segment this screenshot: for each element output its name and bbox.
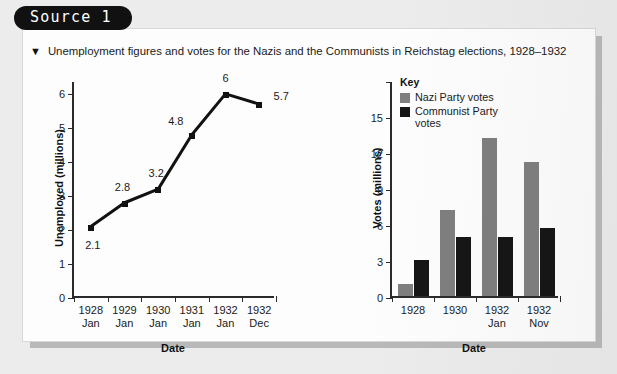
bar-chart-y-tick-label: 9 — [377, 184, 383, 196]
bar-chart-y-tick-label: 6 — [377, 220, 383, 232]
votes-bar-chart: Votes (millions) 03691215192819301932Jan… — [358, 74, 568, 314]
line-chart-point-label: 2.8 — [115, 181, 130, 193]
chart-legend-key: Key Nazi Party votes Communist Party vot… — [400, 76, 511, 131]
bar-communist-4 — [540, 228, 555, 296]
caption-text: Unemployment figures and votes for the N… — [48, 44, 567, 59]
line-chart-x-axis-title: Date — [72, 342, 274, 354]
line-chart-point-label: 3.2 — [149, 167, 164, 179]
bar-chart-x-axis-title: Date — [390, 342, 558, 354]
bar-chart-x-tick — [476, 296, 477, 302]
bar-chart-y-tick — [386, 118, 392, 119]
bar-chart-y-tick — [386, 190, 392, 191]
source-badge: Source 1 — [14, 6, 132, 30]
line-chart-data-point — [155, 187, 161, 193]
line-chart-y-tick-label: 1 — [59, 258, 65, 270]
line-chart-point-label: 4.8 — [168, 115, 183, 127]
bar-chart-x-tick — [434, 296, 435, 302]
line-chart-y-tick-label: 0 — [59, 292, 65, 304]
bar-chart-y-tick-label: 3 — [377, 256, 383, 268]
line-chart-y-tick-label: 2 — [59, 224, 65, 236]
line-chart-point-label: 6 — [222, 72, 228, 84]
bar-chart-y-tick — [386, 154, 392, 155]
legend-title: Key — [400, 76, 511, 88]
line-chart-data-point — [223, 92, 229, 98]
bar-chart-y-tick-label: 0 — [377, 292, 383, 304]
legend-item-nazi: Nazi Party votes — [400, 91, 511, 104]
line-chart-x-category-label: 1930Jan — [146, 304, 170, 330]
bar-chart-y-tick-label: 12 — [371, 148, 383, 160]
bar-chart-x-category-label: 1932Nov — [527, 304, 551, 330]
legend-label-communist: Communist Party votes — [415, 105, 511, 130]
bar-chart-x-tick — [518, 296, 519, 302]
bar-nazi-3 — [482, 138, 497, 296]
bar-chart-x-tick — [392, 296, 393, 302]
line-chart-y-tick-label: 6 — [59, 88, 65, 100]
line-chart-y-tick-label: 3 — [59, 190, 65, 202]
line-chart-data-point — [189, 133, 195, 139]
bar-chart-y-tick — [386, 226, 392, 227]
line-chart-data-point — [122, 201, 128, 207]
scanned-textbook-page: Source 1 ▼ Unemployment figures and vote… — [0, 0, 617, 374]
line-chart-y-axis-title: Unemployed (millions) — [53, 113, 65, 263]
figure-caption: ▼ Unemployment figures and votes for the… — [30, 44, 590, 59]
bar-nazi-4 — [524, 162, 539, 296]
legend-swatch-communist — [400, 107, 410, 117]
line-chart-x-category-label: 1931Jan — [180, 304, 204, 330]
line-chart-plot-area: 01234562.12.83.24.865.71928Jan1929Jan193… — [72, 82, 274, 298]
line-chart-x-tick — [276, 296, 277, 302]
line-chart-y-tick-label: 4 — [59, 156, 65, 168]
bar-communist-1 — [414, 260, 429, 296]
bar-communist-2 — [456, 237, 471, 296]
line-chart-x-category-label: 1928Jan — [79, 304, 103, 330]
bar-chart-y-tick — [386, 262, 392, 263]
line-chart-data-point — [256, 102, 262, 108]
bar-chart-x-category-label: 1932Jan — [485, 304, 509, 330]
bar-chart-x-tick — [560, 296, 561, 302]
bar-chart-y-tick — [386, 82, 392, 83]
line-chart-x-category-label: 1932Jan — [213, 304, 237, 330]
bar-chart-x-category-label: 1930 — [443, 304, 467, 317]
line-chart-y-tick-label: 5 — [59, 122, 65, 134]
bar-nazi-1 — [398, 284, 413, 296]
legend-item-communist: Communist Party votes — [400, 105, 511, 130]
line-chart-point-label: 2.1 — [85, 239, 100, 251]
bar-nazi-2 — [440, 210, 455, 296]
line-chart-point-label: 5.7 — [274, 90, 289, 102]
triangle-bullet-icon: ▼ — [30, 44, 41, 59]
line-chart-x-category-label: 1929Jan — [112, 304, 136, 330]
line-chart-data-point — [88, 225, 94, 231]
bar-chart-x-category-label: 1928 — [401, 304, 425, 317]
bar-chart-y-tick-label: 15 — [371, 112, 383, 124]
legend-label-nazi: Nazi Party votes — [415, 91, 494, 104]
legend-swatch-nazi — [400, 93, 410, 103]
line-chart-x-category-label: 1932Dec — [247, 304, 271, 330]
unemployment-line-chart: Unemployed (millions) 01234562.12.83.24.… — [40, 74, 290, 314]
bar-communist-3 — [498, 237, 513, 296]
